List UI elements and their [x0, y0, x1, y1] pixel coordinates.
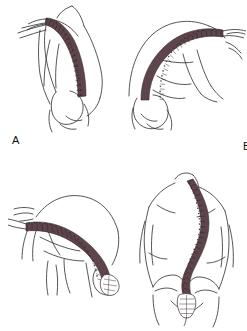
- hip-right-d: [213, 297, 219, 327]
- panel-d: D: [123, 165, 247, 331]
- scapula-left-d: [157, 205, 175, 213]
- pelvis-lower-left-d: [155, 288, 177, 291]
- face-line-b: [226, 42, 241, 53]
- panel-label-b: B: [243, 141, 247, 152]
- sacrum-d: [177, 294, 195, 326]
- panel-a: A: [0, 0, 123, 165]
- forearm-b: [211, 86, 223, 99]
- chin-line-b: [229, 48, 242, 59]
- shoulder-left-d: [149, 183, 175, 207]
- arm-right-d: [229, 225, 233, 267]
- spine-a: [27, 18, 86, 97]
- thigh-outline-b: [167, 110, 172, 130]
- spine-c: [8, 219, 119, 295]
- arm-right-inner-d: [221, 227, 223, 267]
- arm-outline-c: [22, 229, 28, 259]
- arm-left-inner-d: [152, 225, 154, 265]
- thigh-back-c: [86, 263, 92, 297]
- spine-b: [141, 29, 246, 100]
- neck-outline-a: [57, 6, 72, 18]
- hip-left-d: [153, 295, 159, 325]
- panel-b: B: [123, 0, 247, 165]
- spine-d: [177, 179, 209, 326]
- hand-b: [201, 94, 217, 102]
- panel-b-illustration: [123, 0, 247, 165]
- panel-c: C: [0, 165, 123, 331]
- sacrum-c: [100, 274, 119, 295]
- thigh-left-c: [47, 261, 49, 295]
- arm-outline-b: [197, 50, 211, 86]
- lower-abdomen-b: [153, 90, 185, 99]
- arm-inner-b: [183, 54, 201, 94]
- face-line-c: [14, 213, 33, 215]
- torso-right-d: [219, 211, 229, 289]
- hip-line-a: [49, 110, 52, 132]
- ilium-right-d: [187, 277, 219, 289]
- ilium-left-d: [153, 275, 185, 287]
- front-arm-inner-a: [56, 44, 59, 88]
- pelvis-outline-b: [133, 95, 168, 129]
- thigh-right-c: [64, 259, 70, 293]
- figure-root: A: [0, 0, 247, 331]
- arm-outline-a: [84, 26, 102, 98]
- arm-inner-c: [33, 231, 36, 261]
- chin-line-c: [20, 219, 33, 221]
- panel-label-a: A: [12, 135, 19, 146]
- head-line-c: [14, 208, 34, 210]
- back-upper-outline-a: [72, 6, 84, 26]
- forearm-outline-a: [87, 98, 100, 116]
- buttock-outline-c: [112, 231, 119, 265]
- lower-buttock-a: [60, 124, 76, 129]
- pelvis-lower-right-d: [195, 290, 217, 293]
- head-line-b: [227, 33, 245, 35]
- abdomen-contour-b: [157, 76, 191, 85]
- chin-line-a: [18, 25, 45, 33]
- gluteal-fold-b: [141, 114, 157, 121]
- leg-inner-c: [56, 265, 58, 295]
- neck-left-d: [175, 173, 193, 179]
- panel-d-illustration: [123, 165, 247, 331]
- panel-c-illustration: [0, 165, 123, 331]
